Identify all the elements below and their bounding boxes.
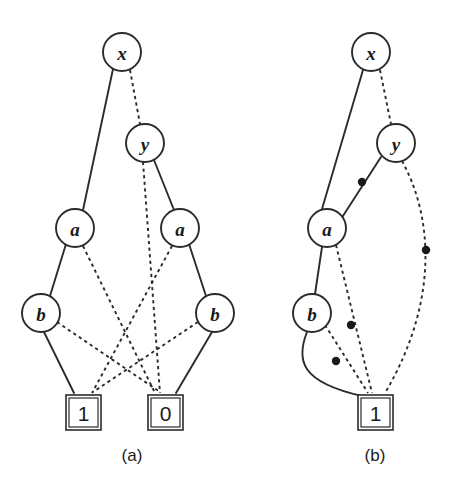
edge-a-y-to-a-a2-solid [154, 160, 174, 210]
panel-panel-b: xyab1(b) [293, 33, 430, 465]
node-b-b[interactable]: b [293, 294, 331, 332]
node-label-a-x: x [116, 43, 127, 64]
edge-dot-b-dot-ya [358, 178, 366, 186]
edge-dot-b-dot-b1 [332, 357, 340, 365]
edge-a-a1-to-a-t0-dashed [83, 246, 155, 393]
edge-b-y-to-b-a-solid [341, 157, 381, 219]
edge-a-a2-to-a-b2-solid [189, 244, 206, 296]
node-label-a-b2: b [210, 304, 220, 325]
edge-a-a2-to-a-t1-dashed [92, 246, 172, 393]
node-label-b-y: y [390, 134, 401, 155]
node-a-a2[interactable]: a [161, 209, 199, 247]
edge-a-b1-to-a-t1-solid [44, 332, 74, 393]
node-b-y[interactable]: y [377, 124, 415, 162]
edge-a-y-to-a-t0-dashed [143, 162, 160, 393]
node-label-b-x: x [365, 43, 376, 64]
node-b-x[interactable]: x [352, 33, 390, 71]
node-a-b1[interactable]: b [22, 294, 60, 332]
panel-caption-panel-b: (b) [365, 446, 386, 465]
terminal-b-t1[interactable]: 1 [358, 395, 393, 430]
edge-a-x-to-a-y-dashed [130, 70, 140, 124]
edge-b-b-to-b-t1-dashed [325, 325, 368, 393]
terminal-a-t1[interactable]: 1 [66, 395, 101, 430]
edge-a-b2-to-a-t0-solid [176, 332, 212, 393]
terminal-label-b-t1: 1 [370, 402, 382, 425]
node-a-y[interactable]: y [126, 124, 164, 162]
node-label-a-y: y [139, 134, 150, 155]
panel-caption-panel-a: (a) [122, 446, 143, 465]
node-label-a-b1: b [36, 304, 46, 325]
edge-b-x-to-b-y-dashed [380, 70, 391, 124]
edge-dot-b-dot-a1 [347, 321, 355, 329]
node-a-x[interactable]: x [103, 33, 141, 71]
node-label-b-a: a [322, 219, 332, 240]
terminal-label-a-t0: 0 [160, 402, 172, 425]
node-a-b2[interactable]: b [196, 294, 234, 332]
terminal-a-t0[interactable]: 0 [148, 395, 183, 430]
node-label-a-a1: a [70, 219, 80, 240]
edge-dot-b-dot-y1 [422, 246, 430, 254]
edge-a-x-to-a-a1-solid [83, 69, 113, 210]
figure-container: xyaabb10(a)xyab1(b) [0, 0, 463, 492]
edge-a-a1-to-a-b1-solid [50, 244, 66, 296]
node-label-a-a2: a [175, 219, 185, 240]
node-label-b-b: b [307, 304, 317, 325]
edge-b-y-to-b-t1-dashed [385, 161, 425, 393]
bdd-figure: xyaabb10(a)xyab1(b) [0, 0, 463, 492]
panel-panel-a: xyaabb10(a) [22, 33, 234, 465]
edge-b-a-to-b-b-solid [315, 247, 322, 294]
edge-b-b-to-b-t1-solid [302, 332, 362, 396]
node-b-a[interactable]: a [308, 209, 346, 247]
edge-b-x-to-b-a-solid [322, 70, 363, 209]
node-a-a1[interactable]: a [56, 209, 94, 247]
terminal-label-a-t1: 1 [78, 402, 90, 425]
